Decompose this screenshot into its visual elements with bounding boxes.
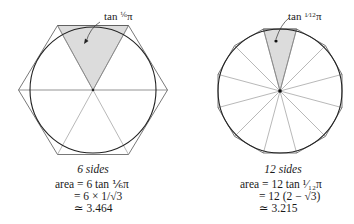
right-formula-line1: area = 12 tan ¹⁄₁₂π — [240, 178, 322, 190]
dodecagon-figure — [218, 18, 342, 153]
shaded-sector — [263, 29, 296, 91]
hexagon-figure — [19, 22, 168, 155]
left-tan-label: tan ⅙π — [104, 10, 133, 22]
right-formula-line3: ≃ 3.215 — [240, 202, 322, 214]
left-formula-line3: ≃ 3.464 — [55, 202, 129, 214]
left-caption: 6 sides — [33, 163, 153, 175]
left-formula-line1: area = 6 tan ⅙π — [55, 178, 129, 190]
right-tan-label: tan 1⁄12π — [288, 10, 321, 22]
shaded-sector — [58, 26, 129, 91]
right-caption: 12 sides — [223, 163, 343, 175]
right-formula-line2: = 12 (2 − √3) — [240, 190, 322, 202]
left-formula-line2: = 6 × 1/√3 — [55, 190, 129, 202]
right-formula: area = 12 tan ¹⁄₁₂π = 12 (2 − √3) ≃ 3.21… — [240, 178, 322, 214]
left-formula: area = 6 tan ⅙π = 6 × 1/√3 ≃ 3.464 — [55, 178, 129, 214]
